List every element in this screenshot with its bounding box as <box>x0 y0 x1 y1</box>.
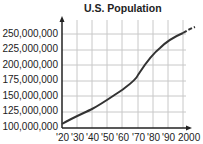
x-tick-label: '90 <box>162 132 175 143</box>
x-tick-label: '30 <box>71 132 84 143</box>
axes <box>60 16 193 131</box>
plot-area <box>0 0 203 144</box>
x-tick-label: 2000 <box>178 132 200 143</box>
x-tick-label: '50 <box>101 132 114 143</box>
x-tick-label: '60 <box>116 132 129 143</box>
x-tick-label: '20 <box>56 132 69 143</box>
population-projection-dashed <box>183 27 195 33</box>
x-tick-label: '40 <box>86 132 99 143</box>
x-tick-label: '70 <box>132 132 145 143</box>
x-tick-label: '80 <box>147 132 160 143</box>
gridlines <box>62 20 186 128</box>
